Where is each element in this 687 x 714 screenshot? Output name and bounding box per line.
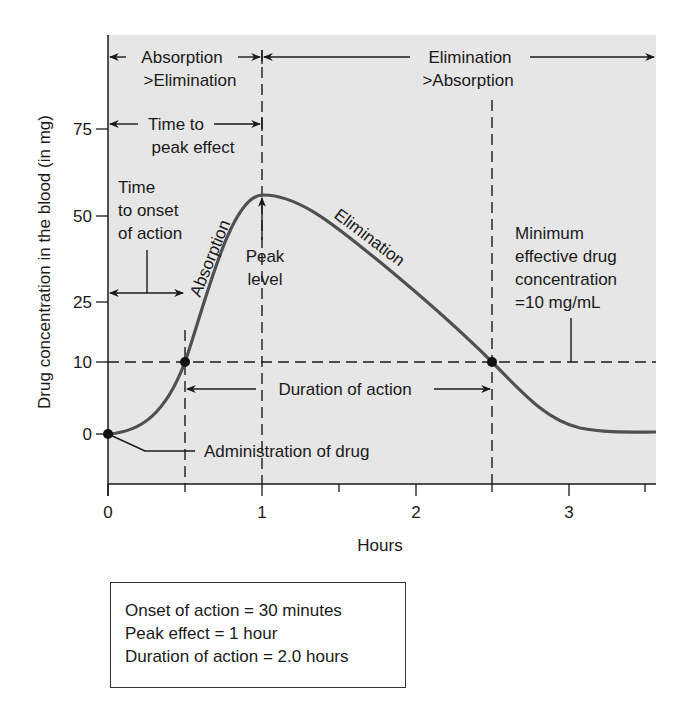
x-tick-1: 1	[257, 503, 266, 522]
x-axis-title: Hours	[357, 536, 402, 555]
y-tick-25: 25	[73, 293, 92, 312]
label-duration: Duration of action	[278, 380, 411, 399]
label-administration: Administration of drug	[204, 442, 369, 461]
x-ticks: 0 1 2 3	[103, 484, 645, 522]
label-mec-1: Minimum	[515, 224, 584, 243]
summary-duration: Duration of action = 2.0 hours	[125, 645, 405, 668]
label-absorption-phase: Absorption	[141, 48, 222, 67]
onset-point	[180, 357, 190, 367]
x-tick-2: 2	[411, 503, 420, 522]
y-tick-50: 50	[73, 207, 92, 226]
label-onset-2: to onset	[118, 201, 179, 220]
y-tick-10: 10	[73, 353, 92, 372]
label-peak-2: level	[248, 270, 283, 289]
x-tick-3: 3	[564, 503, 573, 522]
end-of-action-point	[487, 357, 497, 367]
summary-onset: Onset of action = 30 minutes	[125, 599, 405, 622]
x-tick-0: 0	[103, 503, 112, 522]
label-mec-2: effective drug	[515, 247, 617, 266]
y-tick-0: 0	[83, 425, 92, 444]
label-onset-3: of action	[118, 224, 182, 243]
label-elimination-phase: Elimination	[428, 48, 511, 67]
y-ticks: 75 50 25 10 0	[73, 120, 108, 444]
label-time-to-peak-2: peak effect	[152, 138, 235, 157]
y-axis-title: Drug concentration in the blood (in mg)	[35, 115, 54, 409]
summary-box: Onset of action = 30 minutes Peak effect…	[110, 582, 406, 688]
y-tick-75: 75	[73, 120, 92, 139]
label-peak-1: Peak	[246, 247, 285, 266]
summary-peak: Peak effect = 1 hour	[125, 622, 405, 645]
label-absorption-phase-2: >Elimination	[143, 71, 236, 90]
label-onset-1: Time	[118, 178, 155, 197]
label-mec-4: =10 mg/mL	[515, 293, 601, 312]
label-time-to-peak-1: Time to	[148, 115, 204, 134]
label-mec-3: concentration	[515, 270, 617, 289]
label-elimination-phase-2: >Absorption	[422, 71, 513, 90]
